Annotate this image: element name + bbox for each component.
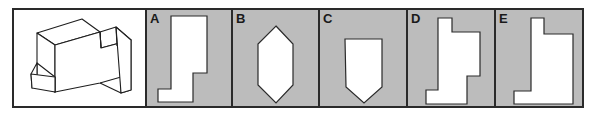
option-a[interactable]: A	[147, 10, 233, 106]
option-b[interactable]: B	[233, 10, 320, 106]
option-e[interactable]: E	[496, 10, 582, 106]
question-panel	[14, 10, 147, 106]
double-stepped-shape-icon	[408, 10, 496, 106]
option-d[interactable]: D	[408, 10, 496, 106]
hexagon-shape-icon	[233, 10, 320, 106]
puzzle-frame: A B C D E	[12, 8, 584, 108]
pentagon-shape-icon	[320, 10, 408, 106]
stepped-l-shape-icon	[147, 10, 233, 106]
option-c[interactable]: C	[320, 10, 408, 106]
notched-l-shape-icon	[496, 10, 582, 106]
isometric-figure-icon	[14, 10, 147, 106]
